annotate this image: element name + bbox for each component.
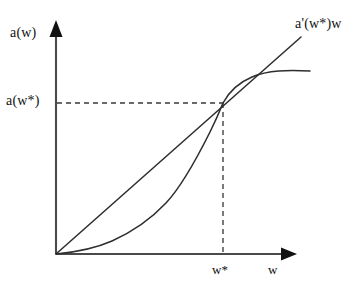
y-value-label-a-wstar: a(w*)	[6, 94, 40, 108]
effort-sigmoid-curve	[56, 71, 310, 254]
y-axis-label: a(w)	[10, 26, 36, 40]
curves-group	[56, 37, 310, 254]
figure-canvas: a(w) a(w*) a'(w*)w w* w	[0, 0, 362, 295]
x-axis-label: w	[268, 263, 278, 276]
diagram-svg	[0, 0, 362, 295]
tangent-ray-line	[56, 37, 301, 254]
y-axis-arrowhead	[50, 20, 63, 37]
axes-group	[50, 20, 298, 261]
tangent-line-label: a'(w*)w	[295, 17, 342, 31]
x-tick-label-wstar: w*	[212, 263, 228, 276]
x-axis-arrowhead	[281, 248, 297, 261]
